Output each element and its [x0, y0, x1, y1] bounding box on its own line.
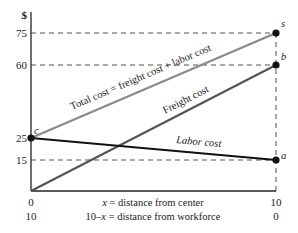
x-axis-label-primary: x = distance from center	[101, 197, 204, 208]
x-tick-10-primary: 10	[271, 196, 283, 208]
x-label-rest: = distance from center	[107, 197, 204, 208]
point-s-label: s	[281, 18, 285, 29]
point-s	[272, 29, 279, 36]
y-tick-15: 15	[16, 154, 28, 166]
point-b	[272, 61, 279, 68]
y-unit-label: $	[22, 9, 28, 21]
y-tick-75: 75	[16, 27, 28, 39]
reference-lines	[31, 33, 276, 191]
x-tick-0-primary: 0	[28, 196, 34, 208]
total-cost-line	[31, 33, 276, 138]
y-tick-25: 25	[16, 132, 28, 144]
x-tick-0-secondary: 10	[26, 210, 38, 222]
point-c-label: c	[34, 125, 39, 136]
point-b-label: b	[281, 51, 286, 62]
labor-cost-line	[31, 138, 276, 160]
x-label-pre: 10–	[86, 211, 103, 222]
y-tick-60: 60	[16, 59, 28, 71]
cost-chart: $ 75 60 25 15 c s b a Total cost = freig…	[0, 0, 298, 233]
x-tick-10-secondary: 0	[273, 210, 279, 222]
freight-cost-line	[31, 65, 276, 191]
x-label-rest-2: = distance from workforce	[106, 211, 221, 222]
x-axis-label-secondary: 10–x = distance from workforce	[86, 211, 221, 222]
point-a	[272, 156, 279, 163]
point-a-label: a	[281, 150, 286, 161]
labor-cost-label: Labor cost	[175, 134, 223, 149]
